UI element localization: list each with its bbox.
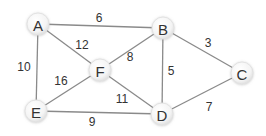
node-label: D xyxy=(157,107,168,124)
edge-weight-label: 8 xyxy=(127,50,134,64)
edge-weight-label: 11 xyxy=(116,92,129,106)
node-e: E xyxy=(25,100,47,122)
weighted-graph-diagram: 61210835716119 ABCDEF xyxy=(0,0,266,136)
node-label: E xyxy=(31,104,41,121)
edge-weight-label: 10 xyxy=(17,60,31,74)
node-f: F xyxy=(89,59,111,81)
edge-e-d xyxy=(36,111,162,114)
node-d: D xyxy=(151,103,173,125)
node-a: A xyxy=(27,13,49,35)
node-c: C xyxy=(231,62,253,84)
edge-a-f xyxy=(38,24,100,70)
nodes-layer: ABCDEF xyxy=(25,13,253,125)
edge-weight-label: 3 xyxy=(205,36,212,50)
edge-weight-label: 7 xyxy=(206,100,213,114)
edge-weight-label: 5 xyxy=(168,64,175,78)
edge-weight-label: 12 xyxy=(75,38,89,52)
edge-weight-label: 6 xyxy=(96,11,103,25)
edge-a-e xyxy=(36,24,38,111)
node-label: A xyxy=(33,17,43,34)
edge-b-d xyxy=(162,28,163,114)
node-label: B xyxy=(158,21,168,38)
edge-weight-label: 9 xyxy=(89,115,96,129)
edge-weight-label: 16 xyxy=(54,74,68,88)
node-label: F xyxy=(95,63,104,80)
node-label: C xyxy=(237,66,248,83)
node-b: B xyxy=(152,17,174,39)
edge-c-d xyxy=(162,73,242,114)
edge-b-c xyxy=(163,28,242,73)
